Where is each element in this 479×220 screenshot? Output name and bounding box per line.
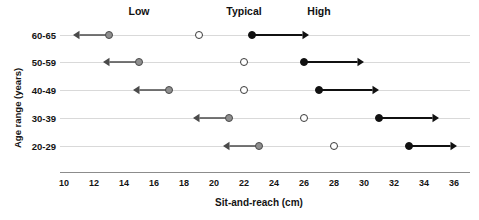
marker-typical-40-49	[240, 86, 248, 94]
marker-typical-30-39	[300, 114, 308, 122]
marker-typical-50-59	[240, 58, 248, 66]
row-label-20-29: 20-29	[26, 141, 56, 152]
x-tick-36: 36	[449, 178, 459, 188]
x-tick-26: 26	[299, 178, 309, 188]
marker-low-20-29	[255, 142, 263, 150]
row-label-60-65: 60-65	[26, 30, 56, 41]
x-tick-10: 10	[59, 178, 69, 188]
x-axis-line	[60, 172, 470, 173]
x-tick-12: 12	[89, 178, 99, 188]
row-label-40-49: 40-49	[26, 85, 56, 96]
x-tick-20: 20	[209, 178, 219, 188]
arrow-high-icon	[313, 83, 385, 97]
sit-and-reach-chart: Age range (years)LowTypicalHigh60-6550-5…	[0, 0, 479, 220]
marker-typical-20-29	[330, 142, 338, 150]
row-baseline	[60, 90, 470, 91]
x-tick-24: 24	[269, 178, 279, 188]
x-tick-14: 14	[119, 178, 129, 188]
marker-high-20-29	[405, 142, 413, 150]
x-axis-title: Sit-and-reach (cm)	[215, 197, 303, 208]
x-tick-28: 28	[329, 178, 339, 188]
legend-item-high: High	[307, 5, 330, 17]
marker-typical-60-65	[195, 31, 203, 39]
marker-low-40-49	[165, 86, 173, 94]
marker-low-30-39	[225, 114, 233, 122]
x-tick-32: 32	[389, 178, 399, 188]
x-tick-30: 30	[359, 178, 369, 188]
arrow-high-icon	[373, 111, 445, 125]
row-label-30-39: 30-39	[26, 113, 56, 124]
marker-high-40-49	[315, 86, 323, 94]
row-label-50-59: 50-59	[26, 57, 56, 68]
arrow-high-icon	[246, 28, 315, 42]
marker-high-50-59	[300, 58, 308, 66]
marker-high-30-39	[375, 114, 383, 122]
x-tick-16: 16	[149, 178, 159, 188]
x-tick-18: 18	[179, 178, 189, 188]
legend-item-typical: Typical	[226, 5, 261, 17]
x-tick-22: 22	[239, 178, 249, 188]
marker-high-60-65	[248, 31, 256, 39]
marker-low-50-59	[135, 58, 143, 66]
x-tick-34: 34	[419, 178, 429, 188]
legend-item-low: Low	[129, 5, 150, 17]
arrow-high-icon	[298, 55, 370, 69]
marker-low-60-65	[105, 31, 113, 39]
y-axis-title: Age range (years)	[12, 68, 23, 148]
